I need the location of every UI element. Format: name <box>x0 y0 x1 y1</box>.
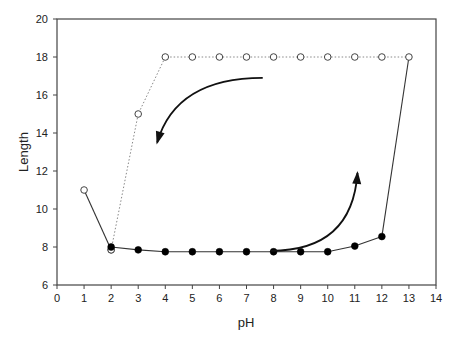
data-point-filled <box>270 248 277 255</box>
x-tick-label: 10 <box>322 292 334 304</box>
data-point-open <box>81 187 88 194</box>
data-point-filled <box>162 248 169 255</box>
y-tick-label: 16 <box>36 89 48 101</box>
arrow-head <box>156 131 165 145</box>
data-point-open <box>297 54 304 61</box>
x-tick-label: 13 <box>403 292 415 304</box>
arrow-curve <box>157 78 263 143</box>
x-axis-title: pH <box>238 315 255 330</box>
x-tick-label: 2 <box>108 292 114 304</box>
y-tick-label: 12 <box>36 165 48 177</box>
x-tick-label: 14 <box>430 292 442 304</box>
x-tick-label: 4 <box>162 292 168 304</box>
y-tick-label: 18 <box>36 51 48 63</box>
x-tick-label: 5 <box>189 292 195 304</box>
x-tick-label: 0 <box>54 292 60 304</box>
data-point-filled <box>351 243 358 250</box>
series-line-descending-open-dotted <box>111 57 409 250</box>
data-point-open <box>270 54 277 61</box>
data-point-open <box>351 54 358 61</box>
x-tick-label: 8 <box>271 292 277 304</box>
data-point-filled <box>189 248 196 255</box>
data-point-filled <box>378 233 385 240</box>
arrow-curve <box>271 173 358 251</box>
data-point-open <box>324 54 331 61</box>
y-tick-label: 10 <box>36 203 48 215</box>
x-tick-label: 12 <box>376 292 388 304</box>
data-point-open <box>406 54 413 61</box>
data-point-filled <box>135 246 142 253</box>
y-tick-label: 8 <box>42 241 48 253</box>
data-point-open <box>379 54 386 61</box>
y-axis-title: Length <box>16 132 31 172</box>
y-tick-label: 20 <box>36 13 48 25</box>
series-layer <box>81 54 412 255</box>
data-point-filled <box>216 248 223 255</box>
data-point-open <box>216 54 223 61</box>
series-line-descending-open-solid <box>84 190 111 250</box>
chart: 0123456789101112131468101214161820 pH Le… <box>0 0 454 342</box>
data-point-open <box>189 54 196 61</box>
x-tick-label: 3 <box>135 292 141 304</box>
x-tick-label: 6 <box>216 292 222 304</box>
data-point-filled <box>108 244 115 251</box>
x-tick-label: 11 <box>349 292 360 304</box>
annotation-layer <box>156 78 361 251</box>
data-point-filled <box>243 248 250 255</box>
x-tick-label: 7 <box>243 292 249 304</box>
data-point-filled <box>297 248 304 255</box>
y-tick-label: 6 <box>42 279 48 291</box>
y-tick-label: 14 <box>36 127 48 139</box>
x-tick-label: 1 <box>81 292 87 304</box>
data-point-filled <box>324 248 331 255</box>
series-line-connector-solid <box>382 57 409 237</box>
data-point-open <box>135 111 142 118</box>
data-point-open <box>243 54 250 61</box>
x-tick-label: 9 <box>298 292 304 304</box>
data-point-open <box>162 54 169 61</box>
